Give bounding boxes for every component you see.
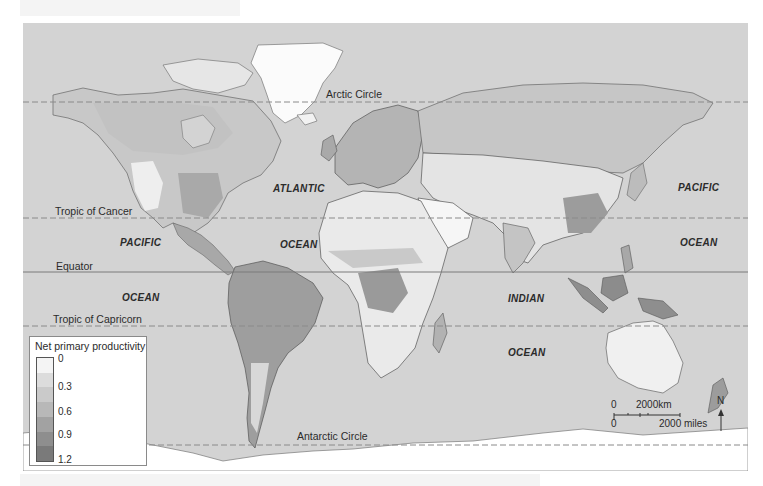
scale-mi-zero: 0: [611, 418, 617, 429]
tropic-of-cancer-label: Tropic of Cancer: [55, 205, 132, 217]
scale-mi-label: 2000 miles: [659, 418, 707, 429]
legend-tick-0-6: 0.6: [58, 406, 72, 417]
legend-swatch: [37, 417, 53, 432]
legend-color-bar: [36, 357, 54, 462]
north-arrow-head: [718, 409, 724, 416]
legend-swatch: [37, 373, 53, 388]
ocean-label-pacific-east: PACIFIC: [678, 182, 719, 193]
scale-bar: 0 2000km 0 2000 miles N: [610, 398, 750, 438]
legend-tick-1-2: 1.2: [58, 454, 72, 465]
equator-label: Equator: [56, 260, 93, 272]
legend-tick-0-3: 0.3: [58, 381, 72, 392]
land-europe: [335, 105, 423, 188]
land-australia: [606, 321, 683, 393]
legend-swatch: [37, 432, 53, 447]
faint-footer-strip: [20, 474, 540, 486]
legend-tick-0-9: 0.9: [58, 429, 72, 440]
ocean-label-atlantic-ocean: OCEAN: [280, 239, 318, 250]
land-south-america: [228, 261, 323, 448]
legend-swatch: [37, 446, 53, 461]
arctic-circle-label: Arctic Circle: [326, 88, 382, 100]
legend-swatch: [37, 387, 53, 402]
ocean-label-indian-ocean: OCEAN: [508, 347, 546, 358]
legend-swatch: [37, 402, 53, 417]
land-central-america: [173, 223, 235, 275]
land-new-guinea: [638, 298, 678, 319]
ocean-label-pacific-west-ocean: OCEAN: [122, 292, 160, 303]
antarctic-circle-label: Antarctic Circle: [297, 430, 368, 442]
ocean-label-pacific-west: PACIFIC: [120, 237, 161, 248]
land-borneo: [601, 275, 628, 301]
land-arctic-islands: [163, 59, 253, 93]
ocean-label-pacific-east-ocean: OCEAN: [680, 237, 718, 248]
land-philippines: [621, 245, 633, 273]
faint-header-strip: [20, 0, 240, 16]
tropic-of-capricorn-label: Tropic of Capricorn: [53, 313, 142, 325]
legend-tick-0: 0: [58, 353, 64, 364]
ocean-label-indian: INDIAN: [508, 293, 544, 304]
ocean-label-atlantic: ATLANTIC: [273, 183, 325, 194]
land-iceland: [297, 113, 317, 125]
north-label: N: [717, 395, 724, 406]
land-madagascar: [433, 313, 447, 353]
legend: Net primary productivity 0 0.3 0.6 0.9 1…: [29, 336, 147, 466]
legend-swatch: [37, 358, 53, 373]
land-uk: [321, 135, 337, 161]
legend-title: Net primary productivity: [35, 340, 145, 352]
land-greenland: [251, 43, 343, 123]
